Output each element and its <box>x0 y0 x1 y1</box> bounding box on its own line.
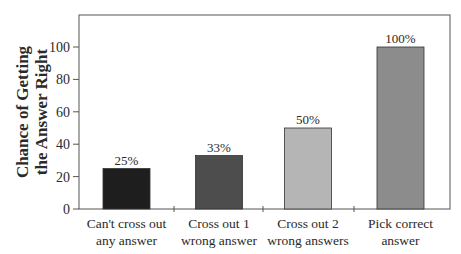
y-axis-label: Chance of Getting the Answer Right <box>13 45 51 178</box>
y-axis-ticks: 020406080100 <box>49 40 79 217</box>
bar <box>285 128 332 209</box>
y-axis-label-line-1: Chance of Getting <box>13 45 32 178</box>
y-axis-label-line-2: the Answer Right <box>32 49 51 176</box>
bar-value-label: 25% <box>115 153 139 168</box>
y-tick-label: 60 <box>56 105 70 120</box>
bars: 25%33%50%100% <box>103 31 424 209</box>
bar-value-label: 100% <box>385 31 416 46</box>
x-category-label: Pick correct <box>368 216 433 231</box>
x-category-label: Cross out 2 <box>277 216 339 231</box>
y-tick-label: 80 <box>56 72 70 87</box>
y-tick-label: 40 <box>56 137 70 152</box>
x-category-label: wrong answer <box>181 233 258 248</box>
x-category-label: answer <box>381 233 420 248</box>
x-category-label: Can't cross out <box>87 216 167 231</box>
x-category-label: any answer <box>96 233 158 248</box>
x-axis-labels: Can't cross outany answerCross out 1wron… <box>87 216 434 248</box>
x-category-label: Cross out 1 <box>188 216 250 231</box>
bar-chart: Chance of Getting the Answer Right 02040… <box>0 0 461 254</box>
bar <box>196 156 243 209</box>
bar-value-label: 33% <box>207 140 231 155</box>
y-tick-label: 100 <box>49 40 70 55</box>
y-tick-label: 0 <box>63 202 70 217</box>
bar <box>377 47 424 209</box>
bar <box>103 169 150 210</box>
y-tick-label: 20 <box>56 170 70 185</box>
bar-value-label: 50% <box>296 112 320 127</box>
x-category-label: wrong answers <box>267 233 348 248</box>
